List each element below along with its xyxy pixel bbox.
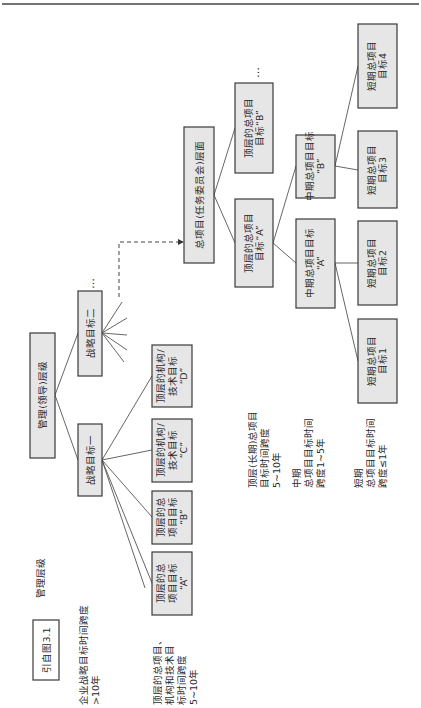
- program-short-1-label-line: 目标1: [377, 348, 388, 374]
- program-mid-b-label-line: 中期总项目目标: [304, 131, 315, 201]
- annotation-mid-program-line: 中期: [291, 468, 302, 488]
- program-top-a-label-line: 目标“A”: [254, 225, 265, 260]
- top-goal-d-label-line: 技术目标: [167, 356, 178, 396]
- strategic-goal-2-label-line: 战略目标二: [85, 308, 96, 358]
- annotation-top-mgmt-line: 标时间跨度: [176, 655, 187, 705]
- level-heading-line: 管理层级: [35, 558, 46, 598]
- annotation-top-program-line: 顶层(长期)总项目: [247, 411, 258, 488]
- ellipsis-program: …: [249, 66, 262, 78]
- annotation-short-program-line: 总项目目标时间: [365, 418, 376, 488]
- program-short-4-label-line: 目标4: [377, 53, 388, 79]
- management-root-label-line: 管理(领导)层级: [37, 361, 48, 428]
- annotation-top-mgmt-line: 顶层的总项目、: [152, 635, 163, 705]
- top-goal-c-label-line: 顶层的机构/: [155, 423, 166, 477]
- program-top-a-label-line: 顶层的总项目: [243, 213, 254, 273]
- program-top-b-label-line: 顶层的总项目: [243, 98, 254, 158]
- program-root-label-line: 总项目(任务委员会)层面: [194, 141, 205, 248]
- program-short-3-label-line: 目标3: [377, 157, 388, 183]
- ellipsis-strategic: …: [84, 277, 97, 289]
- annotation-top-mgmt-line: 机构和技术目: [164, 645, 175, 705]
- top-goal-b-label-line: 项目目标: [167, 497, 178, 537]
- annotation-short-program-line: 跨度≤1年: [377, 444, 388, 488]
- program-short-4-label-line: 短期总项目: [366, 41, 377, 91]
- top-goal-a-label-line: 项目目标: [167, 563, 178, 603]
- annotation-top-mgmt-line: 5~10年: [188, 669, 199, 705]
- annotation-enterprise-line: 企业战略目标时间跨度: [78, 605, 89, 705]
- strategic-goal-1-label-line: 战略目标一: [85, 435, 96, 485]
- program-short-3-label-line: 短期总项目: [366, 145, 377, 195]
- annotation-short-program-line: 短期: [353, 468, 364, 488]
- annotation-mid-program-line: 总项目目标时间: [303, 418, 314, 488]
- top-goal-b-label-line: “B”: [178, 509, 189, 525]
- annotation-mid-program-line: 跨度1~5年: [315, 438, 326, 488]
- program-mid-a-label-line: 中期总项目目标: [304, 228, 315, 298]
- top-goal-c-label-line: 技术目标: [167, 430, 178, 470]
- program-mid-b-label-line: “B”: [315, 158, 326, 174]
- dashed-arrow: [119, 239, 184, 297]
- top-goal-b-label-line: 顶层的总: [155, 497, 166, 537]
- top-goal-d-label-line: “D”: [178, 368, 189, 385]
- program-top-b-label-line: 目标“B”: [254, 110, 265, 146]
- program-short-2-label-line: 短期总项目: [366, 238, 377, 288]
- program-short-1-label-line: 短期总项目: [366, 336, 377, 386]
- top-goal-a-label-line: 顶层的总: [155, 563, 166, 603]
- annotation-enterprise-line: >10年: [90, 675, 101, 705]
- program-mid-a-label-line: “A”: [315, 256, 326, 270]
- management-connectors: [55, 302, 152, 588]
- hierarchy-diagram: … … 引自图3.1管理层级管理(领导)层级战略目标一战略目标二顶层的总项目目标…: [0, 0, 421, 708]
- annotation-top-program-line: 目标时间跨度: [259, 428, 270, 488]
- program-short-2-label-line: 目标2: [377, 250, 388, 276]
- reference-label-line: 引自图3.1: [41, 627, 52, 672]
- top-goal-d-label-line: 顶层的机构/: [155, 349, 166, 403]
- annotation-top-program-line: 5~10年: [271, 452, 282, 488]
- top-goal-a-label-line: “A”: [178, 576, 189, 590]
- top-goal-c-label-line: “C”: [178, 442, 189, 458]
